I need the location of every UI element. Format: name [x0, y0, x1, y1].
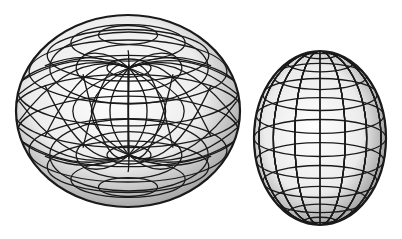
wireframe-surfaces-figure: [0, 0, 402, 239]
figure-canvas: [0, 0, 402, 239]
prolate-spheroid: [254, 49, 386, 227]
oblate-surface: [10, 15, 245, 207]
